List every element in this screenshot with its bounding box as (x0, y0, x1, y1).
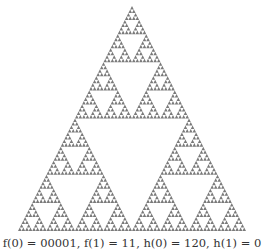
figure-caption: f(0) = 00001, f(1) = 11, h(0) = 120, h(1… (0, 235, 264, 252)
sierpinski-triangles (18, 6, 246, 231)
sierpinski-triangle-figure (0, 0, 264, 236)
